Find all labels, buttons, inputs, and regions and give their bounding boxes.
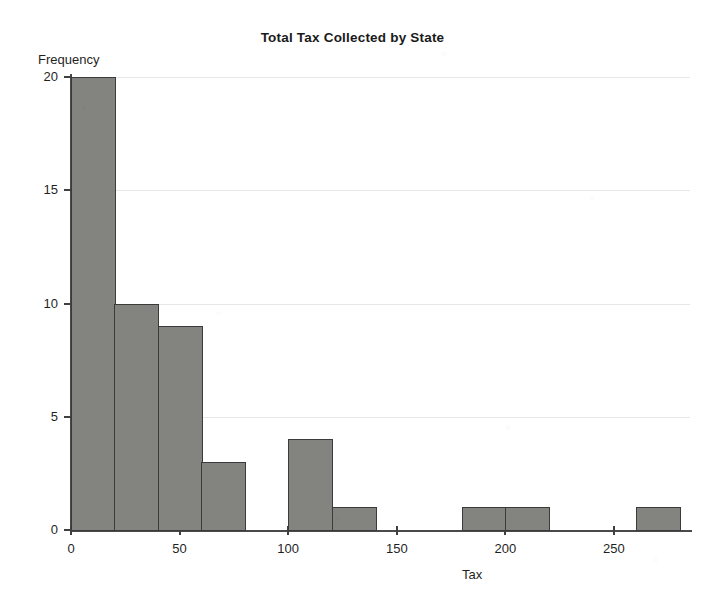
y-axis-label: Frequency — [38, 52, 99, 67]
y-tick-label: 15 — [22, 182, 58, 197]
histogram-bar — [636, 507, 681, 531]
y-tick-label: 0 — [22, 522, 58, 537]
histogram-bar — [201, 462, 246, 531]
histogram-bar — [288, 439, 333, 531]
histogram-bar — [71, 77, 116, 531]
x-tick-label: 200 — [480, 541, 530, 556]
histogram-bar — [462, 507, 507, 531]
histogram-bar — [332, 507, 377, 531]
x-tick-mark — [396, 526, 398, 535]
histogram-chart: Total Tax Collected by State Frequency T… — [0, 0, 705, 602]
gridline — [71, 77, 690, 78]
histogram-bar — [114, 304, 159, 532]
y-tick-label: 20 — [22, 69, 58, 84]
x-tick-mark — [613, 526, 615, 535]
page-title: Total Tax Collected by State — [0, 30, 705, 45]
x-axis-label: Tax — [462, 567, 482, 582]
gridline — [71, 190, 690, 191]
y-tick-label: 10 — [22, 296, 58, 311]
x-tick-label: 100 — [263, 541, 313, 556]
x-tick-label: 50 — [155, 541, 205, 556]
y-tick-label: 5 — [22, 409, 58, 424]
histogram-bar — [158, 326, 203, 531]
x-tick-label: 150 — [372, 541, 422, 556]
histogram-bar — [505, 507, 550, 531]
x-tick-label: 0 — [46, 541, 96, 556]
gridline — [71, 304, 690, 305]
x-tick-label: 250 — [589, 541, 639, 556]
